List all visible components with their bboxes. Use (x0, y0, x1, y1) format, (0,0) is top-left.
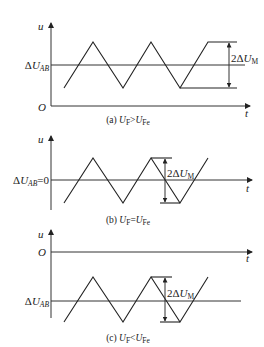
triangle-wave (64, 277, 208, 322)
panel-b: u t ΔUAB=0 2ΔUM (b) UF=UFe (13, 133, 252, 227)
baseline-label: ΔUAB (25, 295, 50, 309)
caption-b: (b) UF=UFe (106, 215, 151, 227)
triangular-wave-diagram: u t O ΔUAB 2ΔUM (a) UF>UFe u t ΔUAB=0 2Δ… (0, 0, 264, 347)
amplitude-label: 2ΔUM (167, 287, 195, 301)
u-axis-label: u (38, 20, 44, 32)
baseline-label: ΔUAB=0 (13, 174, 49, 188)
origin-label: O (38, 246, 46, 258)
baseline-label: ΔUAB (25, 59, 50, 73)
amplitude-label: 2ΔUM (231, 52, 259, 66)
u-axis-label: u (38, 228, 44, 240)
caption-a: (a) UF>UFe (106, 115, 150, 127)
panel-c: u t O ΔUAB 2ΔUM (c) UF<UFe (25, 228, 252, 345)
amplitude-label: 2ΔUM (167, 167, 195, 181)
origin-label: O (38, 101, 46, 113)
u-axis-label: u (38, 133, 44, 145)
t-axis-label: t (246, 252, 250, 264)
t-axis-label: t (246, 182, 250, 194)
t-axis-label: t (245, 107, 249, 119)
panel-a: u t O ΔUAB 2ΔUM (a) UF>UFe (25, 20, 259, 127)
caption-c: (c) UF<UFe (106, 333, 150, 345)
